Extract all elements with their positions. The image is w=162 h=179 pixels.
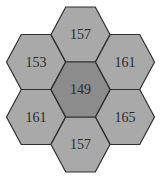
hex-value: 157 bbox=[70, 27, 91, 42]
hex-value: 157 bbox=[70, 137, 91, 152]
hex-value: 161 bbox=[26, 110, 47, 125]
hex-value: 161 bbox=[115, 55, 136, 70]
hex-value: 149 bbox=[70, 82, 91, 97]
hexagon-diagram: 157 153 161 161 165 157 149 bbox=[0, 0, 162, 179]
hex-value: 165 bbox=[115, 110, 136, 125]
hex-value: 153 bbox=[26, 55, 47, 70]
